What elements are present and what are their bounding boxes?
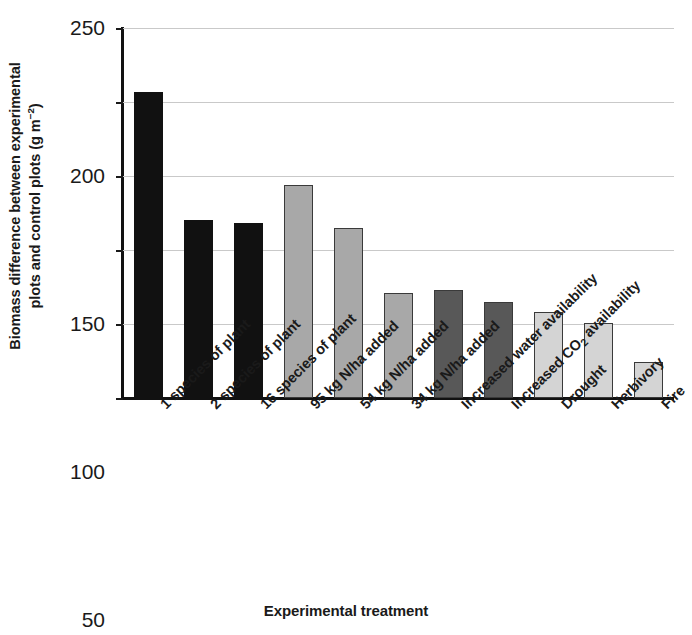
- x-axis-tick-label: Fire: [658, 398, 672, 412]
- bars-group: [123, 28, 674, 398]
- x-axis-tick-label: Herbivory: [608, 398, 622, 412]
- x-axis-tick-label: 95 kg N/ha added: [307, 398, 321, 412]
- y-axis-title-container: Biomass difference between experimental …: [0, 0, 64, 420]
- x-axis-tick-label: 34 kg N/ha added: [408, 398, 422, 412]
- y-axis-tick-label: 250: [70, 16, 105, 40]
- y-axis-tick: 50: [116, 324, 123, 326]
- y-axis-tick: 150: [116, 176, 123, 178]
- y-axis-tick-label: 200: [70, 164, 105, 188]
- y-axis-title: Biomass difference between experimental …: [6, 0, 45, 412]
- y-axis-tick: 200: [116, 102, 123, 104]
- x-axis-tick-label: 2 species of plant: [207, 398, 221, 412]
- y-axis-title-line2-pre: plots and control plots (g m: [27, 119, 43, 308]
- y-axis-tick: 100: [116, 250, 123, 252]
- x-axis-tick-label: 1 species of plant: [157, 398, 171, 412]
- bar: [134, 92, 163, 398]
- y-axis-title-line2-post: ): [27, 103, 43, 108]
- y-axis-tick-label: 150: [70, 312, 105, 336]
- x-axis-title: Experimental treatment: [0, 602, 692, 619]
- x-axis-tick-label: 16 species of plant: [257, 398, 271, 412]
- y-axis-title-line1: Biomass difference between experimental: [7, 62, 23, 349]
- y-axis-tick: 250: [116, 28, 123, 30]
- x-axis-tick-label: Increased water availability: [458, 398, 472, 412]
- x-axis-tick-label: Drought: [558, 398, 572, 412]
- y-axis-title-exponent: −2: [25, 108, 36, 119]
- x-axis-tick-label: 54 kg N/ha added: [358, 398, 372, 412]
- y-axis-tick: 0: [116, 398, 123, 400]
- plot-area: 050100150200250: [123, 28, 674, 398]
- y-axis-tick-label: 100: [70, 460, 105, 484]
- x-axis-tick-labels: 1 species of plant2 species of plant16 s…: [123, 398, 674, 588]
- bar-chart-figure: Biomass difference between experimental …: [0, 0, 692, 635]
- x-axis-tick-label: Increased CO2 availability: [508, 398, 522, 412]
